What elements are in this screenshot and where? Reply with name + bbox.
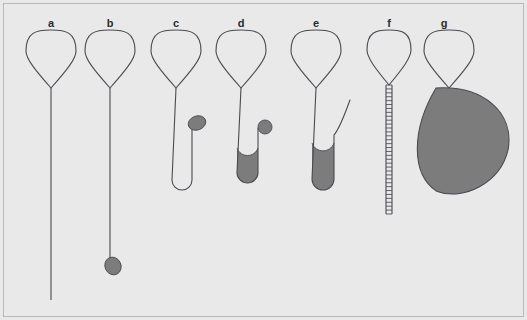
panel-d-droplet: [258, 120, 272, 134]
panel-d-head-loop: [216, 30, 266, 88]
figure-panel: abcdefg: [0, 0, 527, 320]
panel-c-droplet: [186, 113, 208, 132]
panel-label-c: c: [166, 17, 186, 29]
panel-g-head-loop: [424, 30, 474, 88]
panel-a-head-loop: [26, 30, 76, 88]
panel-c-tail-ubend: [172, 88, 192, 190]
panel-f-head-loop: [367, 30, 411, 85]
panel-label-b: b: [100, 17, 120, 29]
panel-label-d: d: [231, 17, 251, 29]
panel-label-f: f: [379, 17, 399, 29]
panel-g-filled-body: [417, 88, 509, 194]
panel-label-e: e: [306, 17, 326, 29]
panel-b-droplet: [102, 254, 124, 277]
diagram-canvas: [0, 0, 527, 320]
panel-label-g: g: [434, 17, 454, 29]
panel-c-head-loop: [151, 30, 201, 88]
panel-e-fill-body: [312, 143, 334, 190]
panel-e-head-loop: [291, 30, 341, 88]
panel-label-a: a: [41, 17, 61, 29]
panel-b-head-loop: [85, 30, 135, 88]
